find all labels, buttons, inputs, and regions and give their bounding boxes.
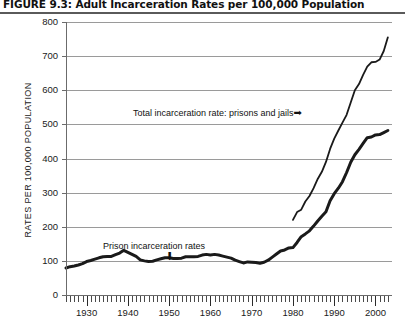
x-tick-label-1980: 1980 <box>273 308 313 318</box>
prison-annotation-text: Prison incarceration rates <box>103 241 205 251</box>
y-tick-label-600: 600 <box>24 85 58 95</box>
total-annotation-text: Total incarceration rate: prisons and ja… <box>133 108 294 118</box>
y-tick-label-700: 700 <box>24 51 58 61</box>
y-tick-label-800: 800 <box>24 17 58 27</box>
gridlines-group <box>66 23 392 262</box>
x-tick-label-1960: 1960 <box>190 308 230 318</box>
x-tick-label-2000: 2000 <box>355 308 395 318</box>
right-arrow-icon: ➡ <box>294 107 302 118</box>
y-tick-label-0: 0 <box>24 290 58 300</box>
figure-container: FIGURE 9.3: Adult Incarceration Rates pe… <box>0 0 405 326</box>
x-tick-label-1930: 1930 <box>67 308 107 318</box>
x-tick-label-1970: 1970 <box>232 308 272 318</box>
plot-area: 0100200300400500600700800 19301940195019… <box>0 0 405 326</box>
x-tick-label-1950: 1950 <box>149 308 189 318</box>
x-tick-label-1940: 1940 <box>108 308 148 318</box>
x-tick-label-1990: 1990 <box>314 308 354 318</box>
y-tick-label-300: 300 <box>24 188 58 198</box>
x-minor-ticks-group <box>67 296 389 305</box>
down-arrow-icon: ⬇ <box>165 251 174 262</box>
y-tick-label-500: 500 <box>24 119 58 129</box>
y-tick-label-400: 400 <box>24 154 58 164</box>
y-tick-label-200: 200 <box>24 222 58 232</box>
prison-incarceration-annotation: Prison incarceration rates <box>103 241 205 252</box>
total-incarceration-annotation: Total incarceration rate: prisons and ja… <box>133 107 302 119</box>
total-incarceration-line <box>293 37 388 220</box>
y-tick-label-100: 100 <box>24 256 58 266</box>
series-paths-group <box>66 37 388 268</box>
chart-svg <box>0 0 405 326</box>
plot-frame-group <box>62 22 392 296</box>
